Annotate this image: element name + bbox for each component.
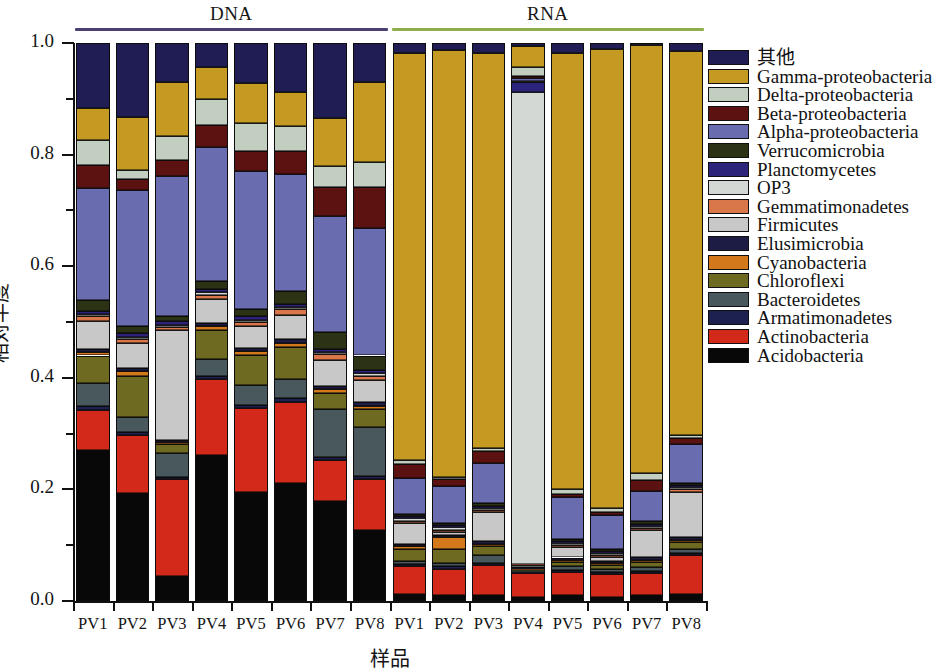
bar-segment[interactable] (511, 92, 545, 564)
bar-segment[interactable] (234, 492, 268, 601)
stacked-bar[interactable] (590, 43, 624, 601)
bar-segment[interactable] (274, 343, 308, 347)
bar-segment[interactable] (274, 304, 308, 307)
bar-segment[interactable] (393, 460, 427, 463)
bar-segment[interactable] (511, 573, 545, 597)
bar-segment[interactable] (116, 432, 150, 435)
bar-segment[interactable] (274, 379, 308, 398)
bar-segment[interactable] (669, 51, 703, 435)
bar-segment[interactable] (274, 339, 308, 342)
bar-segment[interactable] (432, 479, 466, 486)
bar-segment[interactable] (669, 489, 703, 491)
bar-segment[interactable] (234, 405, 268, 408)
bar-segment[interactable] (353, 476, 387, 479)
bar-segment[interactable] (511, 76, 545, 78)
bar-segment[interactable] (155, 327, 189, 330)
bar-segment[interactable] (669, 485, 703, 487)
bar-segment[interactable] (76, 406, 110, 410)
bar-segment[interactable] (551, 545, 585, 547)
bar-segment[interactable] (76, 108, 110, 140)
bar-segment[interactable] (432, 530, 466, 532)
bar-segment[interactable] (630, 480, 664, 491)
bar-segment[interactable] (313, 386, 347, 389)
bar-segment[interactable] (590, 512, 624, 515)
bar-segment[interactable] (195, 379, 229, 454)
bar-segment[interactable] (155, 176, 189, 316)
bar-segment[interactable] (116, 170, 150, 179)
bar-segment[interactable] (432, 549, 466, 564)
bar-segment[interactable] (472, 544, 506, 546)
bar-segment[interactable] (274, 347, 308, 379)
bar-segment[interactable] (234, 320, 268, 322)
stacked-bar[interactable] (630, 43, 664, 601)
bar-segment[interactable] (472, 43, 506, 53)
bar-segment[interactable] (551, 572, 585, 595)
bar-segment[interactable] (116, 179, 150, 190)
bar-segment[interactable] (669, 444, 703, 483)
bar-segment[interactable] (234, 309, 268, 317)
bar-segment[interactable] (234, 151, 268, 171)
bar-segment[interactable] (274, 398, 308, 401)
bar-segment[interactable] (590, 557, 624, 560)
bar-segment[interactable] (472, 448, 506, 451)
bar-segment[interactable] (116, 190, 150, 326)
bar-segment[interactable] (630, 571, 664, 573)
bar-segment[interactable] (393, 546, 427, 548)
bar-segment[interactable] (76, 314, 110, 316)
bar-segment[interactable] (393, 516, 427, 518)
bar-segment[interactable] (274, 307, 308, 309)
bar-segment[interactable] (511, 78, 545, 81)
bar-segment[interactable] (432, 523, 466, 525)
bar-segment[interactable] (393, 561, 427, 564)
stacked-bar[interactable] (511, 43, 545, 601)
bar-segment[interactable] (393, 549, 427, 561)
bar-segment[interactable] (511, 46, 545, 67)
bar-segment[interactable] (472, 53, 506, 448)
bar-segment[interactable] (353, 82, 387, 162)
stacked-bar[interactable] (234, 43, 268, 601)
bar-segment[interactable] (669, 435, 703, 438)
bar-segment[interactable] (313, 501, 347, 601)
bar-segment[interactable] (155, 453, 189, 476)
bar-segment[interactable] (195, 330, 229, 359)
bar-segment[interactable] (116, 493, 150, 601)
bar-segment[interactable] (551, 494, 585, 497)
bar-segment[interactable] (195, 359, 229, 376)
bar-segment[interactable] (551, 541, 585, 543)
bar-segment[interactable] (195, 289, 229, 292)
bar-segment[interactable] (353, 409, 387, 427)
bar-segment[interactable] (393, 464, 427, 479)
bar-segment[interactable] (630, 557, 664, 559)
stacked-bar[interactable] (393, 43, 427, 601)
bar-segment[interactable] (155, 82, 189, 137)
bar-segment[interactable] (432, 532, 466, 535)
bar-segment[interactable] (551, 566, 585, 569)
bar-segment[interactable] (313, 118, 347, 166)
bar-segment[interactable] (313, 393, 347, 409)
bar-segment[interactable] (234, 408, 268, 492)
bar-segment[interactable] (472, 555, 506, 563)
bar-segment[interactable] (590, 574, 624, 596)
bar-segment[interactable] (669, 553, 703, 555)
bar-segment[interactable] (116, 333, 150, 336)
bar-segment[interactable] (195, 281, 229, 289)
bar-segment[interactable] (353, 373, 387, 375)
bar-segment[interactable] (155, 160, 189, 177)
bar-segment[interactable] (590, 515, 624, 548)
bar-segment[interactable] (551, 562, 585, 566)
bar-segment[interactable] (353, 370, 387, 373)
bar-segment[interactable] (274, 402, 308, 483)
bar-segment[interactable] (630, 567, 664, 570)
bar-segment[interactable] (630, 524, 664, 526)
bar-segment[interactable] (393, 594, 427, 601)
bar-segment[interactable] (472, 546, 506, 555)
bar-segment[interactable] (551, 560, 585, 562)
bar-segment[interactable] (353, 479, 387, 529)
bar-segment[interactable] (432, 563, 466, 566)
bar-segment[interactable] (353, 43, 387, 82)
bar-segment[interactable] (432, 43, 466, 50)
bar-segment[interactable] (511, 565, 545, 567)
bar-segment[interactable] (76, 165, 110, 188)
bar-segment[interactable] (195, 376, 229, 379)
bar-segment[interactable] (432, 566, 466, 568)
